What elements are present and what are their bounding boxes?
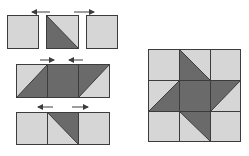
half-square-triangle	[17, 65, 48, 98]
light-square	[8, 16, 39, 49]
quilt-assembly-diagram	[0, 0, 249, 156]
row2-units	[17, 65, 110, 98]
dark-square	[48, 65, 79, 98]
half-square-triangle	[79, 65, 110, 98]
light-square	[87, 16, 118, 49]
row1-units	[8, 16, 118, 49]
finished-block	[149, 50, 241, 142]
row3-units	[17, 113, 110, 145]
half-square-triangle	[47, 16, 79, 49]
half-square-triangle	[48, 113, 79, 145]
light-square	[17, 113, 48, 145]
light-square	[79, 113, 110, 145]
